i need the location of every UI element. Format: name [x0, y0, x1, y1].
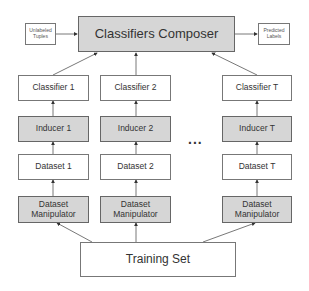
manipulator-label: Dataset Manipulator — [31, 200, 76, 220]
training-set-box: Training Set — [80, 242, 236, 277]
classifier-2-box: Classifier 2 — [100, 75, 171, 101]
dataset-label: Dataset 2 — [117, 162, 153, 172]
classifier-label: Classifier 1 — [32, 83, 74, 93]
dataset-label: Dataset 1 — [35, 162, 71, 172]
inducer-label: Inducer 1 — [36, 124, 71, 134]
classifier-label: Classifier 2 — [114, 83, 156, 93]
inducer-1-box: Inducer 1 — [18, 116, 89, 142]
inducer-2-box: Inducer 2 — [100, 116, 171, 142]
predicted-labels-box: Predicted Labels — [258, 23, 290, 45]
inducer-label: Inducer 2 — [118, 124, 153, 134]
dataset-manipulator-1-box: Dataset Manipulator — [18, 196, 89, 223]
classifier-t-box: Classifier T — [222, 75, 292, 101]
dataset-manipulator-2-box: Dataset Manipulator — [100, 196, 171, 223]
ellipsis: ... — [188, 131, 203, 147]
classifier-label: Classifier T — [236, 83, 278, 93]
inducer-t-box: Inducer T — [222, 116, 292, 142]
manipulator-label: Dataset Manipulator — [113, 200, 158, 220]
unlabeled-tuples-label: Unlabeled Tuples — [26, 28, 55, 40]
dataset-2-box: Dataset 2 — [100, 154, 171, 180]
training-set-label: Training Set — [126, 253, 190, 267]
dataset-1-box: Dataset 1 — [18, 154, 89, 180]
composer-label: Classifiers Composer — [95, 27, 219, 42]
classifier-1-box: Classifier 1 — [18, 75, 89, 101]
inducer-label: Inducer T — [239, 124, 275, 134]
dataset-label: Dataset T — [239, 162, 276, 172]
dataset-manipulator-t-box: Dataset Manipulator — [222, 196, 292, 223]
manipulator-label: Dataset Manipulator — [235, 200, 279, 220]
classifiers-composer-box: Classifiers Composer — [78, 16, 235, 52]
dataset-t-box: Dataset T — [222, 154, 292, 180]
predicted-labels-label: Predicted Labels — [259, 28, 289, 40]
unlabeled-tuples-box: Unlabeled Tuples — [25, 23, 56, 45]
